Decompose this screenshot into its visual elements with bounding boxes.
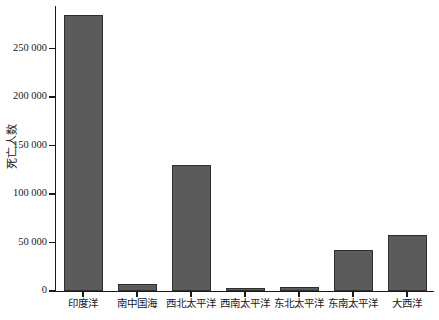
y-axis-tick: [49, 193, 56, 194]
y-axis-tick-label: 200 000: [0, 91, 47, 102]
x-axis-tick: [136, 292, 137, 297]
y-axis-tick: [49, 242, 56, 243]
y-axis-tick-label: 50 000: [0, 237, 47, 248]
bar: [388, 235, 427, 291]
bar: [280, 287, 319, 291]
x-axis-tick-label: 印度洋: [56, 297, 110, 309]
y-axis-tick-label: 150 000: [0, 140, 47, 151]
x-axis-tick: [298, 292, 299, 297]
x-axis-tick-label: 大西洋: [380, 297, 434, 309]
x-axis-tick: [406, 292, 407, 297]
x-axis-tick-label: 西北太平洋: [164, 297, 218, 309]
y-axis-tick: [49, 96, 56, 97]
bar: [172, 165, 211, 291]
y-axis-tick: [49, 290, 56, 291]
x-axis-tick: [352, 292, 353, 297]
x-axis-tick: [82, 292, 83, 297]
x-axis-tick: [190, 292, 191, 297]
x-axis-tick-label: 西南太平洋: [218, 297, 272, 309]
x-axis-tick: [244, 292, 245, 297]
y-axis-tick-labels: 050 000100 000150 000200 000250 000: [0, 0, 47, 320]
bar-chart: 死亡人数 050 000100 000150 000200 000250 000…: [0, 0, 439, 320]
x-axis-tick-label: 东南太平洋: [326, 297, 380, 309]
y-axis-tick: [49, 48, 56, 49]
y-axis-tick-label: 100 000: [0, 188, 47, 199]
bar: [334, 250, 373, 291]
y-axis-tick-label: 0: [0, 285, 47, 296]
bars-layer: [56, 6, 434, 291]
bar: [118, 284, 157, 291]
bar: [64, 15, 103, 291]
y-axis-tick-label: 250 000: [0, 43, 47, 54]
y-axis-tick: [49, 145, 56, 146]
x-axis-tick-label: 东北太平洋: [272, 297, 326, 309]
x-axis-tick-label: 南中国海: [110, 297, 164, 309]
bar: [226, 288, 265, 291]
